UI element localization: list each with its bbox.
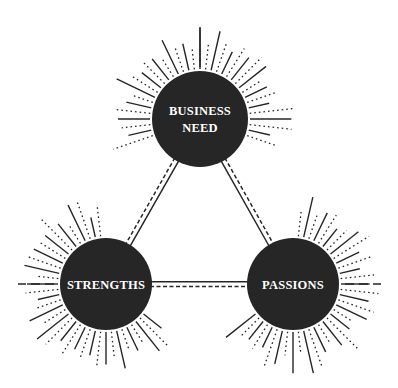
ray-line (314, 213, 327, 241)
ray-line (61, 322, 76, 341)
ray-line (285, 332, 288, 356)
ray-line (314, 327, 326, 352)
node-passions: PASSIONS (247, 238, 339, 330)
ray-line (90, 331, 96, 355)
ray-line (327, 230, 347, 250)
ray-line (249, 103, 269, 108)
ray-line (250, 125, 292, 130)
node-strengths: STRENGTHS (60, 238, 152, 330)
ray-line (239, 66, 266, 87)
ray-line (131, 95, 153, 103)
ray-line (144, 314, 162, 328)
nodes: BUSINESS NEED STRENGTHS PASSIONS (60, 71, 339, 330)
ray-line (117, 331, 126, 369)
ray-line (126, 102, 151, 108)
ray-line (227, 48, 245, 76)
ray-line (319, 215, 337, 243)
edge-solid-line-business-need-passions (221, 160, 270, 247)
ray-line (323, 322, 342, 346)
ray-line (30, 305, 63, 321)
edge-solid-line-business-need-strengths (130, 160, 179, 247)
node-business-need: BUSINESS NEED (152, 71, 248, 167)
ray-line (341, 289, 379, 293)
ray-line (298, 332, 300, 353)
ray-line (142, 61, 165, 84)
ray-line (340, 295, 369, 302)
ray-line (231, 58, 249, 80)
ray-line (304, 331, 314, 373)
triangle-diagram: BUSINESS NEED STRENGTHS PASSIONS (0, 0, 398, 388)
ray-line (75, 327, 86, 349)
ray-line (336, 305, 366, 320)
ray-line (250, 108, 294, 113)
node-circle-business-need (152, 71, 248, 167)
node-label-business-need-line1: BUSINESS (169, 104, 231, 118)
ray-line (26, 289, 59, 293)
ray-line (24, 265, 59, 273)
ray-line (211, 31, 220, 70)
ray-line (122, 125, 151, 128)
ray-line (113, 136, 152, 150)
ray-line (97, 332, 101, 368)
ray-line (117, 79, 155, 97)
edge-dashed-line-business-need-strengths (126, 158, 175, 245)
ray-line (298, 212, 301, 236)
ray-line (323, 229, 337, 247)
ray-line (97, 205, 100, 236)
ray-line (142, 73, 161, 88)
node-label-business-need-line2: NEED (182, 121, 218, 135)
ray-line (222, 52, 233, 74)
ray-line (340, 269, 360, 274)
ray-line (77, 201, 90, 238)
node-label-passions: PASSIONS (262, 278, 324, 292)
ray-line (133, 77, 158, 93)
ray-line (247, 136, 275, 146)
ray-line (111, 332, 114, 357)
ray-line (162, 40, 178, 74)
ray-line (252, 325, 267, 349)
ray-line (275, 331, 283, 364)
edge-dashed-line-business-need-passions (225, 158, 274, 245)
ray-line (91, 217, 95, 237)
ray-line (62, 325, 80, 354)
ray-line (245, 87, 267, 97)
ray-line (338, 257, 370, 268)
ray-line (183, 44, 189, 71)
ray-line (226, 314, 255, 337)
ray-line (116, 109, 151, 113)
ray-line (206, 45, 209, 69)
ray-line (38, 295, 59, 300)
ray-line (262, 327, 272, 347)
ray-line (304, 197, 313, 237)
ray-line (68, 205, 85, 241)
ray-line (128, 130, 151, 135)
ray-line (331, 314, 350, 329)
ray-line (38, 276, 58, 278)
ray-line (152, 59, 169, 80)
ray-line (45, 236, 68, 255)
ray-line (58, 224, 76, 247)
ray-line (43, 310, 66, 324)
ray-line (192, 49, 194, 70)
ray-line (122, 329, 129, 350)
ray-line (249, 130, 270, 135)
ray-line (249, 322, 263, 340)
node-label-strengths: STRENGTHS (67, 278, 145, 292)
ray-line (341, 275, 374, 279)
ray-line (242, 318, 260, 336)
ray-line (39, 242, 65, 258)
ray-line (34, 249, 63, 263)
